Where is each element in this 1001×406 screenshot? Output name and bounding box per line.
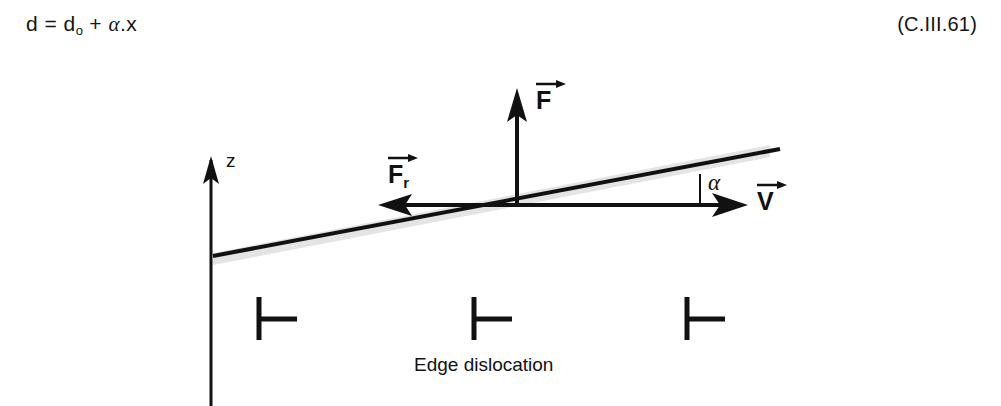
inclined-glide-line: [213, 149, 780, 256]
figure-page: d = do + α.x (C.III.61): [0, 0, 1001, 406]
equation-expression: d = do + α.x: [26, 12, 137, 38]
equation-alpha-symbol: α: [108, 12, 120, 36]
dislocation-symbol: [259, 297, 297, 340]
equation-subscript: o: [76, 23, 83, 38]
angle-alpha-label: α: [708, 170, 720, 196]
equation-number: (C.III.61): [897, 13, 977, 36]
figure-caption: Edge dislocation: [414, 354, 553, 376]
force-vector-letter: F: [536, 86, 551, 114]
equation-plus: +: [83, 12, 108, 35]
diagram-canvas: z F Fr V α Edge dislocation: [0, 60, 1001, 406]
dislocation-symbol: [687, 297, 725, 340]
dislocation-symbol: [474, 297, 512, 340]
velocity-vector-label: V: [757, 189, 774, 214]
velocity-vector-letter: V: [757, 187, 774, 215]
friction-force-vector-subscript: r: [403, 174, 409, 191]
friction-force-vector-label: Fr: [388, 162, 409, 190]
equation-tail: .x: [120, 12, 137, 35]
friction-force-vector-letter: F: [388, 160, 403, 188]
z-axis-label: z: [226, 150, 236, 172]
force-vector-label: F: [536, 88, 551, 113]
equation-lhs: d = d: [26, 12, 76, 35]
